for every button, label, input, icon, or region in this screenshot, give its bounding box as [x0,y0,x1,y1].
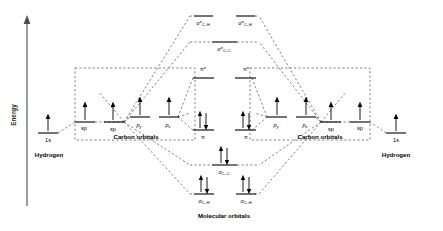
electron-arrow-down [225,148,229,165]
electron-arrow-up [304,97,309,115]
electron-arrow-up [394,114,399,131]
electron-arrow-down [247,113,251,130]
level-label-pi-star: π* [200,66,207,72]
level-carbon-left-py: py [130,97,150,130]
corr-sp-to-sigmacc-right [259,122,321,165]
level-label-sigma-star-ch: σ*C–H [238,20,252,27]
level-mo-sigma-ch-b: σC–H [236,175,256,206]
energy-axis-label: Energy [10,104,18,126]
fragment-label-hydrogen-left: Hydrogen [35,151,64,158]
level-mo-pi-star-a: π* [193,66,214,78]
electron-arrow-up [167,97,172,115]
level-label-sp: sp [357,125,363,131]
electron-arrow-up [199,175,203,192]
level-label-pi: π [244,134,248,140]
level-carbon-right-pz: pz [296,97,316,130]
electron-arrow-up [241,175,245,192]
mo-diagram-canvas: Energy [0,0,443,231]
level-hydrogen-right-1s: 1s [386,114,406,144]
level-label-sp: sp [81,125,87,131]
level-mo-pi-a: π [193,111,214,141]
electron-arrow-up [219,146,223,163]
level-hydrogen-left-1s: 1s [38,114,58,144]
electron-arrow-down [204,113,208,130]
level-label-1s: 1s [393,137,399,143]
fragment-label-hydrogen-right: Hydrogen [382,151,411,158]
corr-p-to-pi [178,117,193,130]
level-mo-pi-b: π [235,111,256,141]
corr-sp-to-sigmacc-star [124,42,190,122]
level-mo-sigma-star-ch-a: σ*C–H [194,16,213,27]
electron-arrow-down [205,177,209,194]
corr-h1s-to-sp-right [370,122,386,133]
level-label-pi: π [201,134,205,140]
level-carbon-right-py: py [267,97,287,130]
corr-p-left-right [255,113,267,117]
electron-arrow-up [241,111,245,128]
mo-connector-stubs [190,16,259,194]
energy-axis-arrowhead [24,15,31,24]
electron-arrow-down [247,177,251,194]
level-label-sigma-ch: σC–H [198,198,209,205]
energy-axis: Energy [10,15,31,206]
correlation-lines-left [58,16,193,194]
carbon-left-group-box [75,68,195,140]
level-carbon-left-pz: pz [159,97,179,130]
electron-arrow-up [358,102,363,120]
level-carbon-left-sp-1: sp [75,102,95,132]
electron-arrow-up [46,114,51,131]
level-carbon-left-sp-2: sp [104,102,124,133]
level-label-py: py [135,122,142,129]
electron-arrow-up [83,102,88,120]
corr-sp-to-sigmacc [124,122,190,165]
level-label-py: py [272,122,279,129]
level-label-sp: sp [328,126,334,132]
electron-arrow-up [329,102,334,120]
corr-p-to-pistar [178,78,193,117]
level-label-sigma-star-ch: σ*C–H [196,20,210,27]
level-label-sp: sp [110,126,116,132]
level-mo-sigma-star-ch-b: σ*C–H [236,16,255,27]
level-carbon-right-sp-2: sp [350,102,370,132]
fragment-label-carbon-right: Carbon orbitals [297,133,343,140]
level-label-pi-star: π* [243,66,250,72]
level-carbon-right-sp-1: sp [321,102,341,133]
level-label-pz: pz [301,122,307,129]
electron-arrow-up [198,111,202,128]
level-mo-sigma-ch-a: σC–H [194,175,214,206]
level-mo-pi-star-b: π* [235,66,256,78]
electron-arrow-up [275,97,280,115]
level-label-pz: pz [164,122,170,129]
level-label-sigma-ch: σC–H [240,198,251,205]
level-label-1s: 1s [45,137,51,143]
mo-energy-diagram: Energy [0,0,443,231]
correlation-lines-right [252,16,386,194]
level-label-sigma-cc: σC–C [218,169,229,176]
corr-sp-to-sigmach-star-right [259,16,321,122]
diagram-bottom-title: Molecular orbitals [198,212,251,219]
level-mo-sigma-star-cc: σ*C–C [212,42,237,53]
corr-h1s-to-sp [58,122,75,133]
corr-p-to-pi-right [252,117,267,130]
corr-p-right [178,113,190,117]
corr-sp-to-sigmacc-star-right [259,42,321,122]
carbon-right-group-box [250,68,370,140]
corr-p-to-pistar-right [252,78,267,117]
corr-sp-to-sigmach-star [124,16,190,122]
level-label-sigma-star-cc: σ*C–C [217,46,231,53]
level-mo-sigma-cc: σC–C [212,146,237,177]
corr-fan-up-a-right [321,92,346,122]
fragment-label-carbon-left: Carbon orbitals [113,133,159,140]
